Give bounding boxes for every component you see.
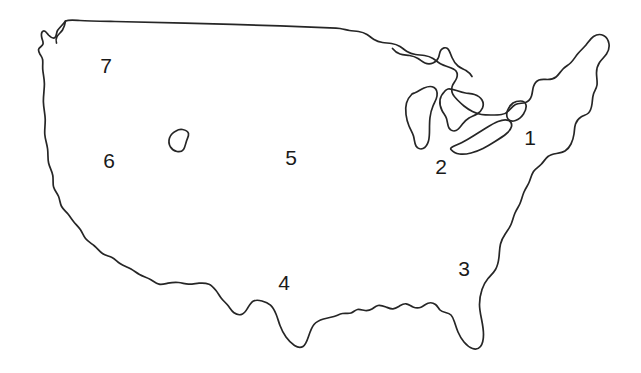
lake-erie-path <box>451 120 512 154</box>
lake-huron-path <box>440 89 483 131</box>
region-label-6: 6 <box>103 149 115 172</box>
region-label-1: 1 <box>524 126 536 149</box>
us-outline-map: 1 2 3 4 5 6 7 <box>0 0 641 373</box>
region-label-7: 7 <box>100 54 112 77</box>
lake-superior-path <box>393 48 473 77</box>
outline-map-figure: 1 2 3 4 5 6 7 <box>0 0 641 373</box>
region-label-5: 5 <box>285 146 297 169</box>
region-label-3: 3 <box>458 257 470 280</box>
region-label-2: 2 <box>435 155 447 178</box>
great-salt-lake-path <box>169 129 189 151</box>
region-label-4: 4 <box>278 271 290 294</box>
us-national-outline-path <box>39 20 610 349</box>
lake-michigan-path <box>406 87 437 149</box>
